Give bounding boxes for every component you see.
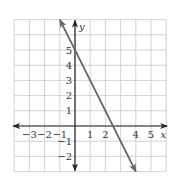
y-tick-label: 4 <box>66 60 72 71</box>
x-tick-label: 4 <box>133 129 139 140</box>
x-tick-label: 1 <box>87 129 93 140</box>
x-tick-label: −3 <box>22 129 37 140</box>
y-tick-label: 5 <box>66 45 72 56</box>
y-tick-label: 2 <box>66 90 72 101</box>
tick-labels: −3−2−11245−2−112345xy <box>22 21 166 162</box>
y-axis-label: y <box>78 21 85 32</box>
y-tick-label: −2 <box>57 151 72 162</box>
y-tick-label: 3 <box>66 75 72 86</box>
x-tick-label: 2 <box>102 129 108 140</box>
y-tick-label: −1 <box>57 136 72 147</box>
x-tick-label: −2 <box>37 129 52 140</box>
x-tick-label: 5 <box>148 129 154 140</box>
x-axis-label: x <box>160 129 166 140</box>
coordinate-plane: −3−2−11245−2−112345xy <box>0 0 175 187</box>
y-tick-label: 1 <box>66 105 72 116</box>
grid-lines <box>14 20 166 172</box>
